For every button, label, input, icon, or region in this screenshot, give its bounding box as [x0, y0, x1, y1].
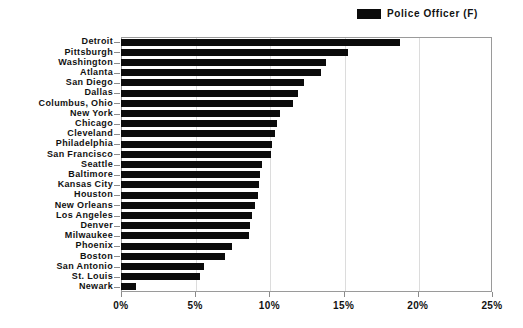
- bar-row: [121, 159, 492, 169]
- y-axis-label: Detroit: [0, 36, 113, 46]
- bar-row: [121, 57, 492, 67]
- x-axis-tick: [344, 292, 345, 297]
- y-axis-label: Houston: [0, 189, 113, 199]
- bar[interactable]: [121, 141, 272, 148]
- y-axis-tick: [114, 165, 120, 166]
- bar[interactable]: [121, 79, 304, 86]
- y-axis-tick: [114, 195, 120, 196]
- x-axis-tick-label: 0%: [113, 300, 128, 311]
- bar[interactable]: [121, 243, 232, 250]
- y-axis-label: Cleveland: [0, 128, 113, 138]
- bar[interactable]: [121, 120, 277, 127]
- bar-row: [121, 78, 492, 88]
- y-axis-label: Philadelphia: [0, 138, 113, 148]
- bar[interactable]: [121, 90, 298, 97]
- chart-legend: Police Officer (F): [357, 5, 478, 23]
- y-axis-tick: [114, 246, 120, 247]
- y-axis-label: Denver: [0, 220, 113, 230]
- bar[interactable]: [121, 263, 204, 270]
- bar-row: [121, 221, 492, 231]
- y-axis-label: San Francisco: [0, 149, 113, 159]
- y-axis-label: Washington: [0, 57, 113, 67]
- bar-row: [121, 170, 492, 180]
- x-axis-tick-labels: 0%5%10%15%20%25%: [0, 300, 523, 316]
- y-axis-tick: [114, 277, 120, 278]
- bar[interactable]: [121, 283, 136, 290]
- bar[interactable]: [121, 130, 275, 137]
- bar-chart: Police Officer (F) DetroitPittsburghWash…: [0, 0, 523, 328]
- y-axis-label: St. Louis: [0, 271, 113, 281]
- y-axis-label: New York: [0, 108, 113, 118]
- x-axis-tick: [121, 292, 122, 297]
- bar-row: [121, 231, 492, 241]
- bar-row: [121, 129, 492, 139]
- bar-row: [121, 282, 492, 292]
- bar-row: [121, 37, 492, 47]
- x-axis-tick-label: 10%: [259, 300, 280, 311]
- y-axis-tick: [114, 134, 120, 135]
- bar-row: [121, 272, 492, 282]
- bars-container: [121, 37, 492, 292]
- y-axis-label: San Diego: [0, 77, 113, 87]
- bar-row: [121, 119, 492, 129]
- y-axis-label: Pittsburgh: [0, 47, 113, 57]
- bar[interactable]: [121, 100, 293, 107]
- y-axis-tick: [114, 236, 120, 237]
- bar[interactable]: [121, 181, 259, 188]
- bar[interactable]: [121, 59, 326, 66]
- y-axis-label: Milwaukee: [0, 230, 113, 240]
- y-axis-label: Newark: [0, 281, 113, 291]
- y-axis-tick: [114, 42, 120, 43]
- y-axis-tick: [114, 83, 120, 84]
- y-axis-tick: [114, 216, 120, 217]
- y-axis-label: Seattle: [0, 159, 113, 169]
- y-axis-label: San Antonio: [0, 261, 113, 271]
- y-axis-tick: [114, 205, 120, 206]
- bar[interactable]: [121, 49, 348, 56]
- y-axis-tick: [114, 256, 120, 257]
- bar-row: [121, 190, 492, 200]
- x-axis-tick: [269, 292, 270, 297]
- bar-row: [121, 241, 492, 251]
- y-axis-tick: [114, 114, 120, 115]
- y-axis-label: Boston: [0, 251, 113, 261]
- bar[interactable]: [121, 222, 250, 229]
- bar[interactable]: [121, 253, 225, 260]
- bar[interactable]: [121, 202, 255, 209]
- bar[interactable]: [121, 69, 321, 76]
- bar-row: [121, 149, 492, 159]
- bar[interactable]: [121, 151, 271, 158]
- bar-row: [121, 210, 492, 220]
- bar[interactable]: [121, 192, 258, 199]
- x-axis-tick-label: 20%: [407, 300, 428, 311]
- y-axis-label: Dallas: [0, 87, 113, 97]
- x-axis-tick: [492, 292, 493, 297]
- y-axis-label: Chicago: [0, 118, 113, 128]
- bar-row: [121, 108, 492, 118]
- bar[interactable]: [121, 39, 400, 46]
- bar[interactable]: [121, 110, 280, 117]
- y-axis-label: Columbus, Ohio: [0, 98, 113, 108]
- y-axis-tick: [114, 185, 120, 186]
- y-axis-label: Los Angeles: [0, 210, 113, 220]
- bar-row: [121, 68, 492, 78]
- bar[interactable]: [121, 273, 200, 280]
- y-axis-tick: [114, 226, 120, 227]
- y-axis-label: Phoenix: [0, 240, 113, 250]
- bar[interactable]: [121, 171, 260, 178]
- y-axis-tick: [114, 93, 120, 94]
- bar[interactable]: [121, 212, 252, 219]
- bar[interactable]: [121, 232, 249, 239]
- y-axis-tick: [114, 154, 120, 155]
- bar-row: [121, 98, 492, 108]
- bar-row: [121, 88, 492, 98]
- legend-swatch-police-officer-f: [357, 9, 381, 19]
- bar[interactable]: [121, 161, 262, 168]
- bar-row: [121, 180, 492, 190]
- y-axis-label: Kansas City: [0, 179, 113, 189]
- y-axis-tick: [114, 175, 120, 176]
- x-axis-ticks: [121, 292, 492, 298]
- x-axis-tick-label: 15%: [333, 300, 354, 311]
- y-axis-tick: [114, 287, 120, 288]
- bar-row: [121, 261, 492, 271]
